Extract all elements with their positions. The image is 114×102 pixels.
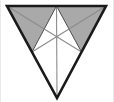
triangle-diagram: Downward-pointing triangle with medians … bbox=[0, 0, 114, 102]
right-edge-artifact bbox=[113, 0, 114, 102]
median-from-bottom-vertex bbox=[57, 6, 58, 98]
figure-container: Downward-pointing triangle with medians … bbox=[0, 0, 114, 102]
left-edge-artifact bbox=[0, 0, 1, 102]
